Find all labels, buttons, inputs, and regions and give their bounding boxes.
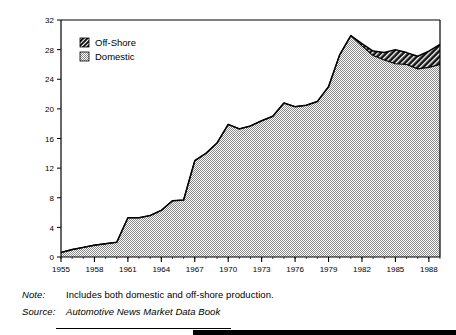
y-tick-label: 12: [45, 164, 54, 173]
footnotes-block: Note: Includes both domestic and off-sho…: [22, 289, 442, 323]
area-domestic: [61, 36, 440, 257]
source-key: Source:: [22, 306, 66, 317]
note-row: Note: Includes both domestic and off-sho…: [22, 289, 442, 300]
x-tick-label: 1973: [253, 265, 271, 274]
figure-container: 048121620242832 195519581961196419671970…: [0, 0, 456, 335]
legend-swatch-domestic: [80, 52, 89, 61]
x-tick-label: 1982: [353, 265, 371, 274]
y-tick-label: 28: [45, 46, 54, 55]
chart-legend: Off-Shore Domestic: [80, 37, 136, 62]
x-tick-label: 1961: [119, 265, 137, 274]
source-text: Automotive News Market Data Book: [66, 306, 220, 317]
x-tick-label: 1976: [286, 265, 304, 274]
note-key: Note:: [22, 289, 66, 300]
x-tick-label: 1970: [219, 265, 237, 274]
x-axis-ticks: 1955195819611964196719701973197619791982…: [52, 257, 440, 274]
note-text: Includes both domestic and off-shore pro…: [66, 289, 274, 300]
y-tick-label: 16: [45, 135, 54, 144]
x-tick-label: 1988: [420, 265, 438, 274]
legend-label-domestic: Domestic: [95, 51, 135, 62]
y-tick-label: 20: [45, 105, 54, 114]
y-tick-label: 4: [50, 224, 55, 233]
x-tick-label: 1958: [86, 265, 104, 274]
thin-rule: [56, 328, 231, 329]
x-tick-label: 1967: [186, 265, 204, 274]
page-rules: [0, 328, 456, 335]
legend-swatch-offshore: [80, 38, 89, 47]
share-area-chart: 048121620242832 195519581961196419671970…: [0, 0, 456, 290]
thick-rule: [193, 330, 456, 335]
y-tick-label: 24: [45, 75, 54, 84]
y-tick-label: 0: [50, 253, 55, 262]
legend-label-offshore: Off-Shore: [95, 37, 136, 48]
source-row: Source: Automotive News Market Data Book: [22, 306, 442, 317]
x-tick-label: 1985: [387, 265, 405, 274]
y-tick-label: 32: [45, 16, 54, 25]
area-series-group: [61, 36, 440, 257]
y-axis-ticks: 048121620242832: [45, 16, 61, 262]
x-tick-label: 1964: [152, 265, 170, 274]
y-tick-label: 8: [50, 194, 55, 203]
x-tick-label: 1979: [320, 265, 338, 274]
x-tick-label: 1955: [52, 265, 70, 274]
